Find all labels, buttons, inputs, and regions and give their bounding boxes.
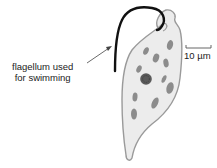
flagellum-label-line2: for swimming (12, 72, 73, 83)
scale-bar (186, 45, 211, 48)
diagram-canvas: flagellum used for swimming 10 µm (0, 0, 217, 168)
flagellum-label: flagellum used for swimming (12, 61, 73, 83)
scale-bar-label: 10 µm (184, 50, 211, 61)
flagellum-label-line1: flagellum used (12, 61, 73, 72)
cell-illustration (0, 0, 217, 168)
label-arrow-line (87, 48, 109, 63)
organelle (131, 109, 137, 120)
nucleus (140, 73, 152, 85)
label-arrow-head (106, 46, 112, 51)
